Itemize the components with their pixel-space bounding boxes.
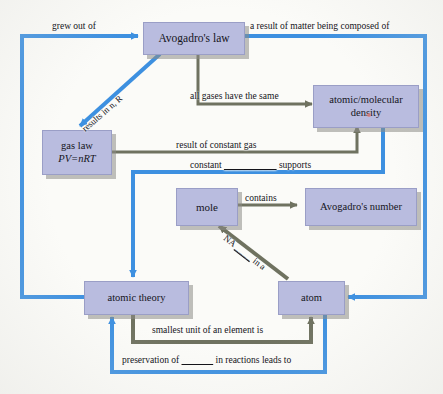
node-mole[interactable]: mole (176, 188, 238, 226)
edge-label-smallest-unit-of-an-element-is: smallest unit of an element is (152, 325, 263, 335)
red-mark-icon (367, 113, 371, 117)
edge-label-a-result-of-matter: a result of matter being composed of (250, 21, 389, 31)
node-avogadros-number-label: Avogadro's number (320, 201, 402, 213)
node-atom[interactable]: atom (278, 281, 345, 315)
node-avogadros-number[interactable]: Avogadro's number (305, 188, 417, 226)
edge-label-contains: contains (245, 193, 277, 203)
node-density-label-line1: atomic/molecular (329, 94, 402, 106)
node-atomic-theory-label: atomic theory (107, 292, 165, 304)
node-avogadros-law-label: Avogadro's law (158, 32, 229, 46)
node-gas-law-label: gas law (61, 140, 93, 152)
node-avogadros-law[interactable]: Avogadro's law (143, 22, 245, 55)
edge-label-grew-out-of: grew out of (52, 21, 96, 31)
node-atom-label: atom (301, 292, 322, 304)
edge-label-all-gases-have-the-same: all gases have the same (190, 91, 279, 101)
node-atomic-theory[interactable]: atomic theory (84, 281, 189, 315)
node-mole-label: mole (196, 201, 218, 214)
node-density-label-line2: density (351, 107, 381, 119)
edge-label-preservation-in-reactions: preservation of ______ in reactions lead… (122, 355, 291, 365)
node-atomic-molecular-density[interactable]: atomic/molecular density (313, 85, 419, 128)
node-gas-law-formula: PV=nRT (58, 153, 95, 165)
edge-label-constant-supports: constant __________ supports (190, 160, 311, 170)
node-gas-law[interactable]: gas law PV=nRT (42, 130, 112, 175)
edge-label-result-of-constant-gas: result of constant gas (176, 140, 256, 150)
concept-map-canvas: Avogadro's law gas law PV=nRT atomic/mol… (0, 0, 443, 394)
